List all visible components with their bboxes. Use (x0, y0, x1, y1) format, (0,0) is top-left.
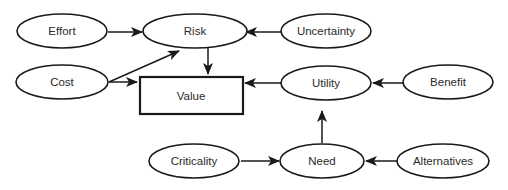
node-label: Utility (312, 77, 340, 89)
node-cost: Cost (16, 65, 108, 99)
influence-diagram: Effort Risk Uncertainty Cost Value Utili… (0, 0, 508, 190)
node-label: Criticality (171, 155, 218, 167)
node-benefit: Benefit (403, 65, 493, 99)
node-uncertainty: Uncertainty (281, 14, 371, 48)
node-label: Uncertainty (297, 25, 355, 37)
node-label: Need (308, 155, 336, 167)
node-label: Effort (48, 25, 76, 37)
node-value: Value (140, 77, 243, 114)
node-label: Benefit (430, 76, 467, 88)
node-label: Cost (50, 76, 74, 88)
node-alternatives: Alternatives (397, 144, 489, 178)
node-need: Need (280, 144, 364, 178)
node-label: Alternatives (413, 155, 473, 167)
node-label: Value (177, 90, 206, 102)
node-risk: Risk (143, 14, 247, 48)
node-utility: Utility (281, 66, 371, 100)
node-criticality: Criticality (149, 144, 239, 178)
node-effort: Effort (17, 14, 107, 48)
node-label: Risk (184, 25, 207, 37)
